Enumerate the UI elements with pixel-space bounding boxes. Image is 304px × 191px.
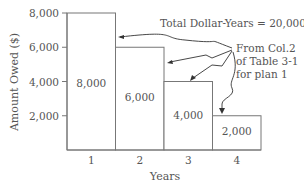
- arrowhead-2: [167, 60, 173, 64]
- y-axis-label: Amount Owed ($): [8, 33, 21, 132]
- arrowhead-3: [190, 75, 196, 81]
- x-tick-label-4: 4: [233, 154, 240, 166]
- data-label-3: 4,000: [173, 109, 203, 121]
- y-tick-label-8000: 8,000: [29, 7, 59, 19]
- x-tick-label-1: 1: [88, 154, 95, 166]
- source-annotation-line-1: From Col.2: [236, 42, 296, 54]
- arrowhead-4: [219, 108, 225, 114]
- total-annotation: Total Dollar-Years = 20,000: [160, 17, 304, 29]
- data-label-1: 8,000: [76, 77, 106, 89]
- bar-chart: 8,0006,0004,0002,000 2,0004,0006,0008,00…: [0, 0, 304, 191]
- data-label-4: 2,000: [222, 125, 252, 137]
- y-tick-label-4000: 4,000: [29, 76, 59, 88]
- x-tick-label-2: 2: [136, 154, 143, 166]
- y-tick-label-6000: 6,000: [29, 41, 59, 53]
- data-label-2: 6,000: [125, 91, 155, 103]
- source-annotation-line-3: for plan 1: [236, 68, 288, 80]
- y-tick-label-2000: 2,000: [29, 110, 59, 122]
- x-tick-label-3: 3: [185, 154, 192, 166]
- arrow-to-bar-2: [170, 50, 232, 62]
- arrow-to-bar-1: [120, 34, 232, 48]
- source-annotation-line-2: of Table 3-1: [236, 55, 299, 67]
- arrow-to-bar-3: [193, 51, 232, 78]
- arrowhead-1: [118, 35, 124, 39]
- x-axis-label: Years: [149, 170, 181, 183]
- arrow-to-bar-4: [222, 52, 235, 110]
